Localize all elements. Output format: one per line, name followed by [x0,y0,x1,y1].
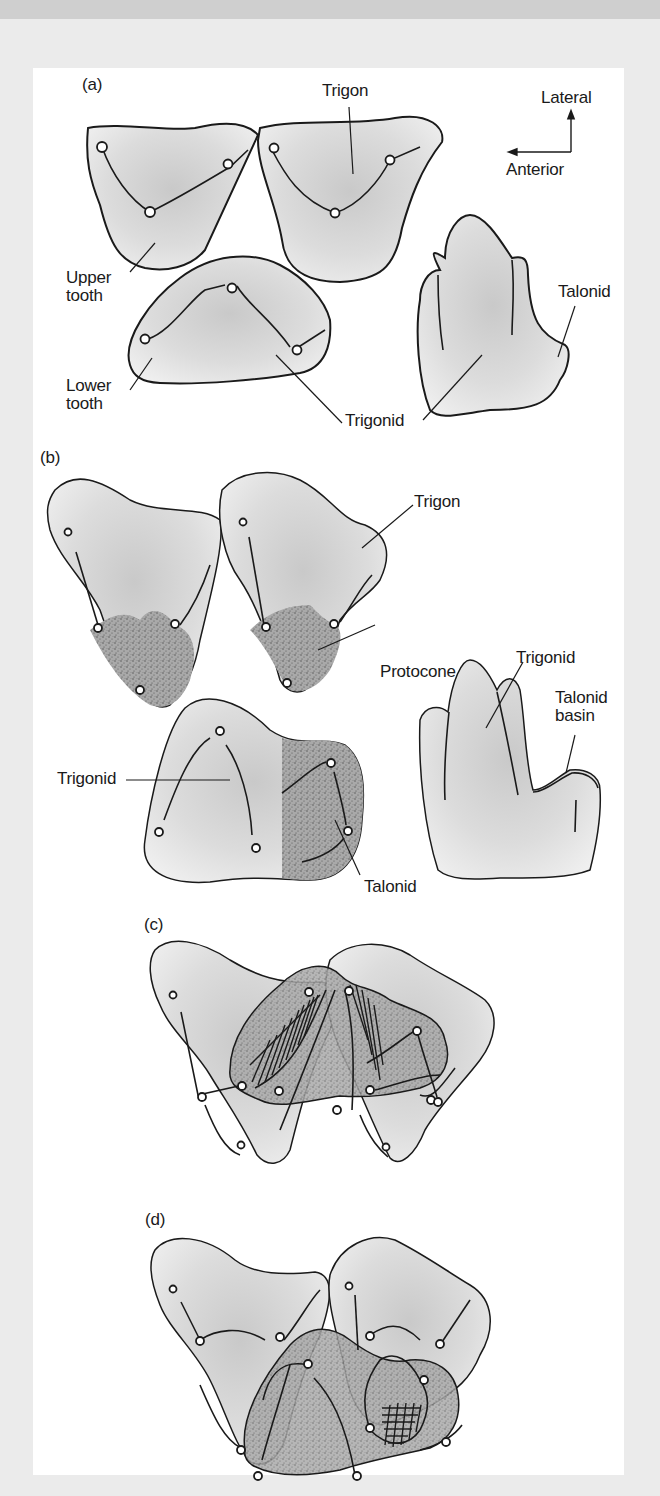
panel-b-drawing [48,473,601,883]
panel-d-drawing [151,1238,490,1480]
trigonid-label-b-side: Trigonid [516,649,575,667]
side-view-tooth-a [418,215,569,416]
lower-tooth-label: Lower tooth [66,377,111,413]
panel-d-label: (d) [145,1211,165,1229]
lower-tooth [129,256,331,383]
panel-a-label: (a) [82,76,102,94]
trigonid-label-a: Trigonid [345,412,404,430]
talonid-label-b: Talonid [364,878,416,896]
upper-tooth-label: Upper tooth [66,269,111,305]
panel-c-label: (c) [144,916,163,934]
anterior-label: Anterior [506,161,564,179]
upper-tooth-right [258,117,442,282]
talonid-label-a: Talonid [558,283,610,301]
lateral-label: Lateral [541,89,592,107]
panel-a-drawing [87,107,575,423]
protocone-label: Protocone [380,663,456,681]
panel-c-drawing [150,941,494,1163]
upper-tooth-left [87,124,258,270]
trigon-label-b: Trigon [414,493,460,511]
talonid-basin-label: Talonid basin [555,689,607,725]
panel-b-label: (b) [40,449,60,467]
tooth-evolution-diagram [0,0,660,1496]
trigonid-label-b-lower: Trigonid [57,770,116,788]
trigon-label-a: Trigon [322,82,368,100]
